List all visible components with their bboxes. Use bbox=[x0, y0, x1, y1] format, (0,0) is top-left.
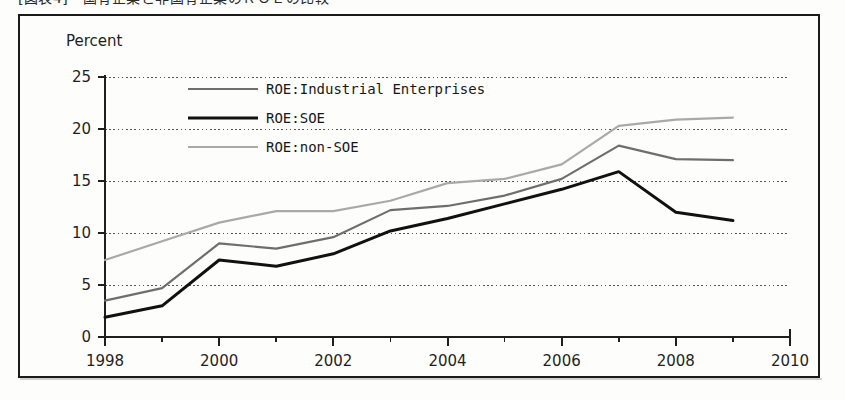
y-axis-unit-label: Percent bbox=[66, 32, 123, 50]
y-tick-label-5: 5 bbox=[81, 276, 91, 294]
legend-label-1: ROE:SOE bbox=[266, 110, 325, 126]
x-tick-label-2010: 2010 bbox=[771, 352, 809, 370]
x-axis-ticks bbox=[105, 337, 790, 346]
figure-page: [図表4] 国有企業と非国有企業のＲＯＥの比較 0510152025 19982… bbox=[0, 0, 845, 400]
y-tick-label-15: 15 bbox=[72, 172, 91, 190]
series-line-1 bbox=[105, 172, 733, 318]
x-tick-label-2006: 2006 bbox=[543, 352, 581, 370]
y-tick-label-20: 20 bbox=[72, 120, 91, 138]
legend-label-2: ROE:non-SOE bbox=[266, 139, 359, 155]
x-tick-label-2008: 2008 bbox=[657, 352, 695, 370]
y-tick-label-0: 0 bbox=[81, 328, 91, 346]
y-tick-label-25: 25 bbox=[72, 68, 91, 86]
y-axis-tick-labels: 0510152025 bbox=[72, 68, 91, 346]
x-tick-label-2004: 2004 bbox=[428, 352, 466, 370]
y-tick-label-10: 10 bbox=[72, 224, 91, 242]
x-tick-label-2002: 2002 bbox=[314, 352, 352, 370]
x-tick-label-2000: 2000 bbox=[200, 352, 238, 370]
x-tick-label-1998: 1998 bbox=[86, 352, 124, 370]
legend-label-0: ROE:Industrial Enterprises bbox=[266, 81, 485, 97]
gridlines bbox=[105, 77, 790, 285]
chart-legend: ROE:Industrial EnterprisesROE:SOEROE:non… bbox=[188, 81, 485, 155]
x-axis-tick-labels: 1998200020022004200620082010 bbox=[86, 352, 809, 370]
roe-line-chart: 0510152025 1998200020022004200620082010 … bbox=[0, 0, 845, 400]
series-line-2 bbox=[105, 118, 733, 260]
